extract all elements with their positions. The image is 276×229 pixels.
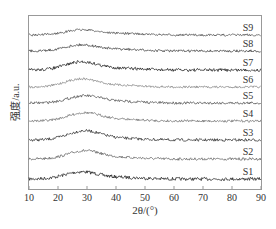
x-tick-label: 60 xyxy=(169,192,179,203)
x-tick-label: 20 xyxy=(53,192,63,203)
x-tick-label: 80 xyxy=(227,192,237,203)
chart-svg: 102030405060708090 S1S2S3S4S5S6S7S8S9 2θ… xyxy=(0,0,276,229)
series-label-s2: S2 xyxy=(243,146,254,157)
series-line-s2 xyxy=(29,150,261,161)
series-line-s4 xyxy=(29,112,261,123)
series-line-s7 xyxy=(29,61,261,72)
x-axis-label: 2θ/(°) xyxy=(132,204,158,217)
x-tick-label: 40 xyxy=(111,192,121,203)
x-tick-label: 30 xyxy=(82,192,92,203)
x-tick-label: 50 xyxy=(140,192,150,203)
series-label-s3: S3 xyxy=(243,127,254,138)
series-label-s5: S5 xyxy=(243,90,254,101)
series-labels: S1S2S3S4S5S6S7S8S9 xyxy=(243,22,254,177)
x-tick-label: 90 xyxy=(256,192,266,203)
series-lines xyxy=(29,29,261,181)
x-tick-label: 70 xyxy=(198,192,208,203)
series-line-s6 xyxy=(29,78,261,88)
x-tick-label: 10 xyxy=(24,192,34,203)
series-label-s7: S7 xyxy=(243,57,254,68)
series-label-s9: S9 xyxy=(243,22,254,33)
series-line-s9 xyxy=(29,29,261,36)
series-line-s1 xyxy=(29,171,261,181)
series-line-s3 xyxy=(29,129,261,141)
series-label-s1: S1 xyxy=(243,166,254,177)
xrd-chart: 102030405060708090 S1S2S3S4S5S6S7S8S9 2θ… xyxy=(0,0,276,229)
series-label-s6: S6 xyxy=(243,74,254,85)
series-line-s8 xyxy=(29,44,261,53)
series-line-s5 xyxy=(29,95,261,105)
x-ticks: 102030405060708090 xyxy=(24,186,266,203)
y-axis-label: 强度/a.u. xyxy=(9,83,21,120)
series-label-s4: S4 xyxy=(243,108,254,119)
series-label-s8: S8 xyxy=(243,38,254,49)
